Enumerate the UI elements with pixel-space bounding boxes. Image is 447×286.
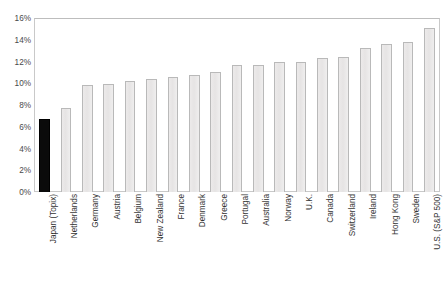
bar-slot — [376, 18, 397, 192]
x-axis-tick: Japan (Topix) — [34, 192, 55, 284]
bar-highlight[interactable] — [39, 119, 50, 192]
bar-slot — [312, 18, 333, 192]
x-axis-tick: Belgium — [119, 192, 140, 284]
bar[interactable] — [360, 48, 371, 192]
x-axis-tick-label: U.K. — [301, 194, 310, 210]
x-axis-tick-label: Sweden — [408, 194, 417, 224]
bar[interactable] — [103, 84, 114, 192]
bar-slot — [184, 18, 205, 192]
bar-slot — [77, 18, 98, 192]
y-axis-tick-label: 0% — [19, 188, 31, 197]
bar-slot — [205, 18, 226, 192]
x-axis-tick: France — [162, 192, 183, 284]
x-axis-tick: New Zealand — [141, 192, 162, 284]
bar-slot — [290, 18, 311, 192]
bar-slot — [162, 18, 183, 192]
x-axis-tick: Ireland — [355, 192, 376, 284]
x-axis-tick-label: Germany — [87, 194, 96, 228]
y-axis-tick-label: 8% — [19, 101, 31, 110]
y-axis-tick-label: 4% — [19, 144, 31, 153]
y-axis-tick-label: 12% — [15, 57, 31, 66]
x-axis-tick: Germany — [77, 192, 98, 284]
x-axis-tick-label: Netherlands — [66, 194, 75, 238]
x-axis-tick: Hong Kong — [376, 192, 397, 284]
x-axis-tick-label: Ireland — [365, 194, 374, 219]
bar-slot — [397, 18, 418, 192]
y-axis-tick-label: 10% — [15, 79, 31, 88]
x-axis-tick: Portugal — [226, 192, 247, 284]
x-axis: Japan (Topix)NetherlandsGermanyAustriaBe… — [34, 192, 440, 284]
bar-slot — [419, 18, 440, 192]
bar[interactable] — [146, 79, 157, 192]
bar[interactable] — [338, 57, 349, 192]
bar-slot — [248, 18, 269, 192]
bar-slot — [333, 18, 354, 192]
bar[interactable] — [424, 28, 435, 192]
x-axis-tick-label: New Zealand — [152, 194, 161, 242]
bar[interactable] — [232, 65, 243, 192]
x-axis-tick-label: Switzerland — [344, 194, 353, 236]
bar[interactable] — [210, 72, 221, 192]
bar[interactable] — [82, 85, 93, 192]
bar[interactable] — [125, 81, 136, 192]
x-axis-tick-label: Austria — [109, 194, 118, 219]
bar[interactable] — [317, 58, 328, 192]
bar-slot — [55, 18, 76, 192]
x-axis-tick: Australia — [248, 192, 269, 284]
x-axis-tick: Switzerland — [333, 192, 354, 284]
bar[interactable] — [403, 42, 414, 192]
bar-slot — [34, 18, 55, 192]
x-axis-tick: Austria — [98, 192, 119, 284]
x-axis-tick-label: Japan (Topix) — [45, 194, 54, 243]
bar-slot — [355, 18, 376, 192]
x-axis-tick-label: France — [173, 194, 182, 219]
bar[interactable] — [253, 65, 264, 192]
y-axis: 16%14%12%10%8%6%4%2%0% — [0, 0, 34, 200]
bar-slot — [98, 18, 119, 192]
bar[interactable] — [381, 44, 392, 192]
x-axis-tick: Denmark — [184, 192, 205, 284]
bar[interactable] — [61, 108, 72, 192]
x-axis-tick-label: Hong Kong — [387, 194, 396, 235]
y-axis-tick-label: 6% — [19, 122, 31, 131]
x-axis-tick: Sweden — [397, 192, 418, 284]
bar[interactable] — [189, 75, 200, 192]
x-axis-tick: Norway — [269, 192, 290, 284]
x-axis-tick-label: Greece — [216, 194, 225, 221]
bar-slot — [269, 18, 290, 192]
x-axis-tick: U.S. (S&P 500) — [419, 192, 440, 284]
x-axis-tick: Greece — [205, 192, 226, 284]
y-axis-tick-label: 2% — [19, 166, 31, 175]
x-axis-tick: U.K. — [290, 192, 311, 284]
y-axis-tick-label: 16% — [15, 14, 31, 23]
plot-area — [34, 18, 440, 192]
x-axis-tick-label: Denmark — [194, 194, 203, 227]
x-axis-tick: Netherlands — [55, 192, 76, 284]
bar-slot — [141, 18, 162, 192]
x-axis-tick-label: Portugal — [237, 194, 246, 225]
bar-slot — [119, 18, 140, 192]
x-axis-tick-label: Canada — [322, 194, 331, 223]
bar[interactable] — [296, 62, 307, 193]
bar-slot — [226, 18, 247, 192]
x-axis-tick-label: Australia — [258, 194, 267, 226]
bar[interactable] — [274, 62, 285, 193]
bar-chart: 16%14%12%10%8%6%4%2%0% Japan (Topix)Neth… — [0, 0, 447, 286]
bar[interactable] — [168, 77, 179, 192]
x-axis-tick-label: Belgium — [130, 194, 139, 224]
x-axis-tick-label: U.S. (S&P 500) — [429, 194, 438, 250]
x-axis-tick-label: Norway — [280, 194, 289, 222]
x-axis-tick: Canada — [312, 192, 333, 284]
y-axis-tick-label: 14% — [15, 35, 31, 44]
